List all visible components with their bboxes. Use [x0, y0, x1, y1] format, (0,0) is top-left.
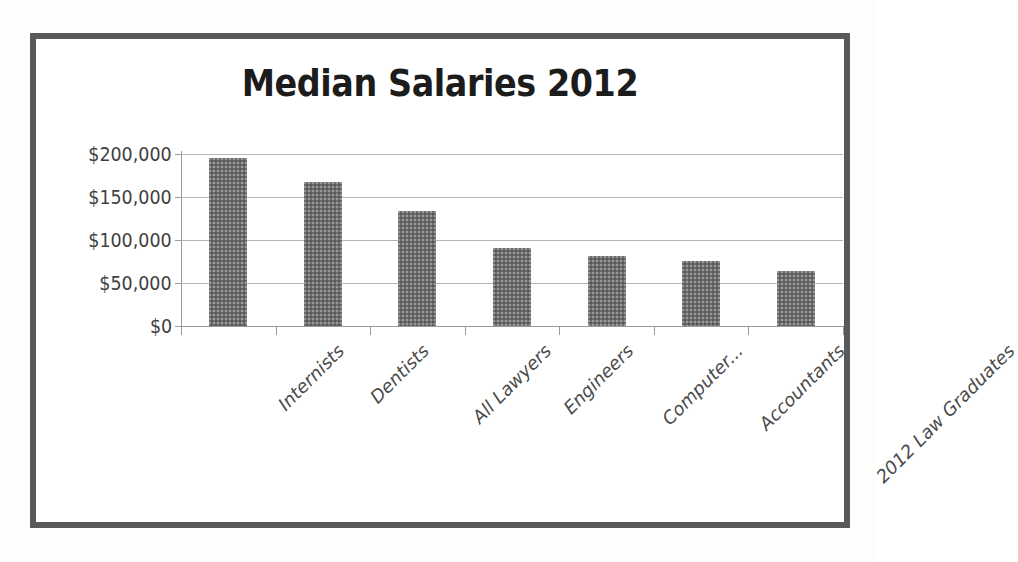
bar-slot: [559, 154, 654, 326]
bar[interactable]: [588, 256, 626, 326]
y-axis-tick-label: $100,000: [89, 229, 172, 251]
bar-slot: [654, 154, 749, 326]
x-axis-tick-mark: [654, 326, 655, 335]
y-axis-tick-label: $50,000: [100, 272, 172, 294]
x-axis-category-label: 2012 Law Graduates: [871, 340, 1018, 487]
x-axis-category-label: All Lawyers: [468, 340, 555, 427]
x-axis-tick-mark: [181, 326, 182, 335]
bar-slot: [276, 154, 371, 326]
x-axis-tick-mark: [276, 326, 277, 335]
bar[interactable]: [304, 182, 342, 326]
bar[interactable]: [682, 261, 720, 326]
x-axis-category-label: Engineers: [559, 340, 637, 418]
x-axis-tick-mark: [843, 326, 844, 335]
x-axis-category-label: Accountants: [755, 340, 849, 434]
x-axis-tick-mark: [465, 326, 466, 335]
bar-slot: [748, 154, 843, 326]
x-axis-tick-mark: [559, 326, 560, 335]
bar[interactable]: [209, 158, 247, 326]
bar-slot: [370, 154, 465, 326]
x-axis-tick-mark: [748, 326, 749, 335]
bar[interactable]: [493, 248, 531, 326]
bar-slot: [181, 154, 276, 326]
chart-frame: Median Salaries 2012 $200,000$150,000$10…: [30, 33, 850, 528]
x-axis-tick-mark: [370, 326, 371, 335]
x-axis-category-label: Dentists: [365, 340, 432, 407]
bar[interactable]: [777, 271, 815, 326]
x-axis-category-label: Computer...: [658, 340, 747, 429]
bar[interactable]: [398, 211, 436, 326]
x-axis-category-label: Internists: [274, 340, 349, 415]
y-axis-tick-label: $200,000: [89, 143, 172, 165]
y-axis-tick-label: $150,000: [89, 186, 172, 208]
chart-title: Median Salaries 2012: [84, 61, 795, 105]
bar-slot: [465, 154, 560, 326]
y-axis-tick-label: $0: [150, 315, 172, 337]
plot-area: [181, 154, 843, 326]
gridline: [181, 326, 843, 327]
y-axis-labels: $200,000$150,000$100,000$50,000$0: [46, 39, 172, 522]
chart-canvas: Median Salaries 2012 $200,000$150,000$10…: [36, 39, 844, 522]
